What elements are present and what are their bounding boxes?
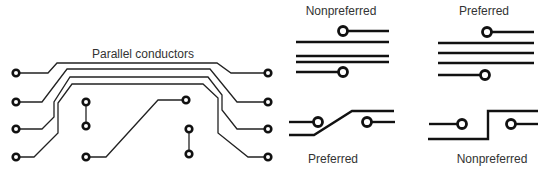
- nonpreferred-bottom-example: [428, 111, 538, 139]
- nonpreferred-top-example: [296, 27, 389, 77]
- pads-left-diagram: [13, 70, 272, 161]
- pcb-trace-diagram: [0, 0, 548, 176]
- preferred-bottom-example: [289, 111, 395, 135]
- parallel-conductor-traces: [20, 63, 264, 157]
- preferred-top-example: [438, 28, 534, 80]
